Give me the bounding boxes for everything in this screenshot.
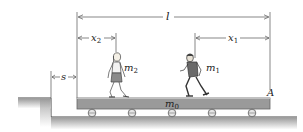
label-s: s [61,71,66,82]
label-m1: m1 [206,62,220,75]
extension-lines [51,12,270,98]
diagram-canvas: l x2 x1 s m0 A [0,0,303,132]
label-l: l [166,10,170,23]
label-m2: m2 [124,62,138,75]
label-x2: x2 [91,32,101,45]
person-woman-icon [108,53,129,97]
wheel [88,109,96,117]
label-point-a: A [266,87,274,98]
wheel [128,109,136,117]
person-man-icon [180,54,209,96]
wheel [168,109,176,117]
label-x1: x1 [228,32,238,45]
wheels [88,109,256,117]
wheel [208,109,216,117]
dimension-l [78,15,269,19]
wheel [248,109,256,117]
